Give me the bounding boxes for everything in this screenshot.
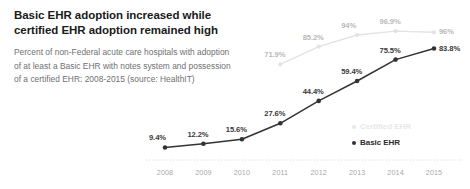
data-point[interactable] [278,62,282,66]
data-point[interactable] [163,145,168,150]
data-point-label: 75.5% [380,46,401,55]
data-point-label: 12.2% [187,130,208,139]
data-point[interactable] [432,46,437,51]
data-point-label: 96% [439,27,454,36]
chart-legend: Certified EHR Basic EHR [352,120,411,152]
legend-item-certified-ehr[interactable]: Certified EHR [352,120,411,133]
legend-label: Certified EHR [360,122,411,131]
x-axis-tick-label: 2015 [426,168,442,177]
plot-area: 71.9%85.2%94%96.9%96%9.4%12.2%15.6%27.6%… [0,0,470,189]
data-point-label: 85.2% [303,33,324,42]
chart-container: Basic EHR adoption increased while certi… [0,0,470,189]
x-axis-tick-label: 2010 [234,168,250,177]
x-axis-tick-label: 2013 [349,168,365,177]
data-point[interactable] [278,121,283,126]
legend-item-basic-ehr[interactable]: Basic EHR [352,136,411,149]
data-point[interactable] [355,79,360,84]
x-axis-tick-label: 2014 [387,168,403,177]
legend-marker-icon [352,141,356,145]
x-axis-tick-label: 2008 [157,168,173,177]
chart-svg [0,0,470,189]
data-point[interactable] [316,99,321,104]
data-point[interactable] [393,57,398,62]
data-point[interactable] [201,142,206,147]
data-point[interactable] [432,30,436,34]
legend-label: Basic EHR [360,138,400,147]
data-point[interactable] [394,29,398,33]
data-point[interactable] [317,45,321,49]
x-axis-tick-label: 2009 [195,168,211,177]
data-point-label: 71.9% [264,50,285,59]
data-point-label: 94% [341,21,356,30]
data-point[interactable] [355,33,359,37]
data-point-label: 44.4% [303,87,324,96]
data-point-label: 15.6% [226,125,247,134]
legend-marker-icon [352,125,356,129]
data-point[interactable] [240,137,245,142]
data-point-label: 59.4% [341,67,362,76]
x-axis-tick-label: 2012 [311,168,327,177]
data-point-label: 83.8% [439,44,460,53]
data-point-label: 96.9% [380,17,401,26]
x-axis-tick-label: 2011 [272,168,288,177]
data-point-label: 9.4% [149,133,166,142]
data-point-label: 27.6% [264,109,285,118]
